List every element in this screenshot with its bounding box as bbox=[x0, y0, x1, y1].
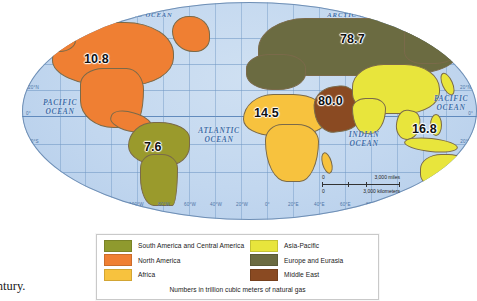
legend-label-africa: Africa bbox=[138, 271, 155, 278]
legend-label-asia-pacific: Asia-Pacific bbox=[284, 242, 319, 249]
scale-miles-max: 3,000 miles bbox=[374, 174, 400, 180]
legend-item-asia-pacific[interactable]: Asia-Pacific bbox=[250, 240, 371, 251]
legend-item-europe-eurasia[interactable]: Europe and Eurasia bbox=[250, 255, 371, 266]
scale-tick-mid2 bbox=[366, 182, 367, 187]
legend-label-south-america: South America and Central America bbox=[138, 242, 244, 249]
legend-label-north-america: North America bbox=[138, 257, 180, 264]
landmass-india[interactable] bbox=[352, 98, 386, 134]
map-legend: South America and Central America Asia-P… bbox=[96, 234, 379, 300]
lon-label-160w: 160°W bbox=[52, 198, 67, 203]
ocean-label-pacific-left: PACIFIC OCEAN bbox=[32, 98, 88, 116]
lon-label-0: 0° bbox=[265, 202, 270, 207]
legend-swatch-north-america bbox=[104, 254, 132, 266]
landmass-greenland[interactable] bbox=[172, 16, 210, 52]
lat-label-60n-right: 60°N bbox=[442, 33, 453, 38]
world-map[interactable]: ARCTIC OCEAN ARCTIC OCEAN PACIFIC OCEAN … bbox=[22, 2, 477, 220]
ocean-label-arctic-left: ARCTIC OCEAN bbox=[98, 10, 188, 19]
landmass-europe[interactable] bbox=[246, 54, 306, 90]
lat-label-20s-left: 20°S bbox=[28, 139, 39, 144]
scale-km-labels: 0 3,000 kilometers bbox=[322, 188, 400, 195]
gridline-lat-40s bbox=[22, 172, 477, 173]
lat-label-40n-right: 40°N bbox=[454, 59, 465, 64]
lon-label-80e: 80°E bbox=[366, 202, 377, 207]
legend-swatch-europe-eurasia bbox=[250, 254, 278, 266]
value-europe-eurasia: 78.7 bbox=[340, 32, 365, 46]
lat-label-20n-left: 20°N bbox=[28, 85, 39, 90]
legend-label-middle-east: Middle East bbox=[284, 271, 319, 278]
scale-tick-mid bbox=[348, 182, 349, 187]
legend-label-europe-eurasia: Europe and Eurasia bbox=[284, 257, 343, 264]
lat-label-40s-right: 40°S bbox=[450, 167, 461, 172]
ocean-label-indian: INDIAN OCEAN bbox=[338, 130, 390, 148]
lat-label-60n-left: 60°N bbox=[46, 33, 57, 38]
scale-miles-labels: 0 3,000 miles bbox=[322, 174, 400, 181]
scale-km-zero: 0 bbox=[322, 188, 325, 194]
lon-label-40e: 40°E bbox=[314, 202, 325, 207]
legend-item-north-america[interactable]: North America bbox=[104, 255, 244, 266]
lon-label-20e: 20°E bbox=[288, 202, 299, 207]
body-line-5: century. bbox=[0, 279, 25, 293]
legend-swatch-asia-pacific bbox=[250, 240, 278, 252]
value-north-america: 10.8 bbox=[84, 52, 109, 66]
legend-item-africa[interactable]: Africa bbox=[104, 269, 244, 280]
landmass-siberia-east[interactable] bbox=[404, 22, 462, 64]
lon-label-100w: 100°W bbox=[129, 202, 144, 207]
legend-swatch-africa bbox=[104, 269, 132, 281]
lon-label-60w: 60°W bbox=[184, 202, 196, 207]
ocean-label-arctic-right: ARCTIC OCEAN bbox=[312, 10, 402, 19]
lat-label-40n-left: 40°N bbox=[34, 59, 45, 64]
legend-item-middle-east[interactable]: Middle East bbox=[250, 269, 371, 280]
ocean-label-pacific-right: PACIFIC OCEAN bbox=[426, 94, 476, 112]
gridline-lon-20w bbox=[241, 2, 242, 220]
legend-item-south-america[interactable]: South America and Central America bbox=[104, 240, 244, 251]
landmass-indonesia[interactable] bbox=[403, 135, 458, 155]
lon-label-20w: 20°W bbox=[236, 202, 248, 207]
scale-tick-end bbox=[399, 182, 400, 187]
landmass-south-america-south[interactable] bbox=[140, 154, 178, 206]
lon-label-160e: 160°E bbox=[460, 194, 474, 199]
legend-swatch-middle-east bbox=[250, 269, 278, 281]
lon-label-60e: 60°E bbox=[340, 202, 351, 207]
scale-miles-zero: 0 bbox=[322, 174, 325, 180]
lon-label-140e: 140°E bbox=[440, 198, 454, 203]
value-south-america: 7.6 bbox=[144, 140, 162, 154]
lat-label-0-right: 0° bbox=[468, 111, 473, 116]
lat-label-40s-left: 40°S bbox=[38, 167, 49, 172]
landmass-africa-south[interactable] bbox=[265, 124, 319, 182]
lon-label-120w: 120°W bbox=[103, 201, 118, 206]
legend-items: South America and Central America Asia-P… bbox=[104, 240, 371, 280]
body-paragraph: or ally at is not e 21st century. bbox=[0, 228, 74, 294]
map-scale-bar: 0 3,000 miles 0 3,000 kilometers bbox=[322, 174, 400, 195]
ocean-label-atlantic: ATLANTIC OCEAN bbox=[190, 126, 248, 144]
scale-bar-line bbox=[322, 182, 400, 187]
lon-label-120e: 120°E bbox=[417, 200, 431, 205]
scale-km-max: 3,000 kilometers bbox=[363, 188, 400, 194]
gridline-lon-40w bbox=[215, 2, 216, 220]
lon-label-80w: 80°W bbox=[158, 202, 170, 207]
scale-tick-0 bbox=[322, 182, 323, 187]
value-africa: 14.5 bbox=[254, 106, 279, 120]
value-asia-pacific: 16.8 bbox=[412, 122, 437, 136]
landmass-alaska[interactable] bbox=[40, 26, 76, 52]
lat-label-20s-right: 20°S bbox=[460, 139, 471, 144]
lon-label-100e: 100°E bbox=[391, 201, 405, 206]
lon-label-140w: 140°W bbox=[77, 200, 92, 205]
lat-label-20n-right: 20°N bbox=[460, 85, 471, 90]
legend-swatch-south-america bbox=[104, 240, 132, 252]
lon-label-40w: 40°W bbox=[210, 202, 222, 207]
map-figure: ARCTIC OCEAN ARCTIC OCEAN PACIFIC OCEAN … bbox=[22, 2, 477, 224]
legend-note: Numbers in trillion cubic meters of natu… bbox=[97, 286, 378, 293]
lat-label-0-left: 0° bbox=[26, 111, 31, 116]
value-middle-east: 80.0 bbox=[318, 94, 343, 108]
